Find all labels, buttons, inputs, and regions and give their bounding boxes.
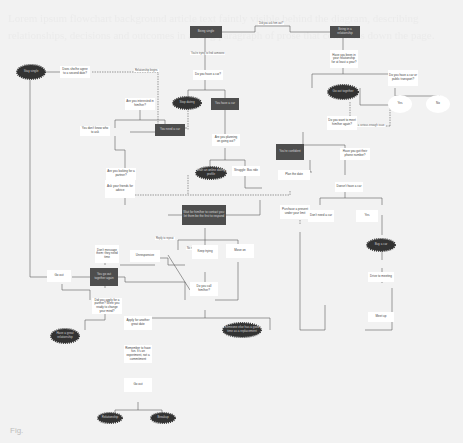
- node-dont-need-car[interactable]: Don't need a car: [308, 210, 334, 222]
- node-label: Meet up: [376, 315, 387, 319]
- node-go-out-final[interactable]: Go out: [124, 378, 152, 392]
- question-meet-again[interactable]: Do you want to meet him/her again?: [327, 116, 357, 130]
- node-label: Apply for another great date: [125, 319, 151, 326]
- edge-label-reply: Reply to repeat: [155, 237, 175, 240]
- node-label: Have a great relationship: [51, 332, 79, 339]
- cloud-great-relationship[interactable]: Have a great relationship: [50, 328, 80, 344]
- node-label: No: [436, 102, 440, 106]
- node-label: You have a car: [215, 102, 235, 106]
- node-need-car[interactable]: You need a car: [155, 124, 185, 136]
- question-partner2[interactable]: Are you looking for a partner?: [106, 168, 136, 180]
- node-label: You go out together again: [91, 273, 117, 280]
- node-label: Stay single: [24, 70, 39, 74]
- node-apply-date[interactable]: Apply for another great date: [124, 316, 152, 330]
- question-transport[interactable]: Do you have a car or public transport?: [388, 70, 418, 86]
- node-label: Go out: [133, 383, 142, 387]
- question-partner-year[interactable]: Have you been in your relationship for a…: [330, 50, 358, 68]
- cloud-relationship-end[interactable]: Relationship: [97, 412, 123, 424]
- node-label: Do you have a car or public transport?: [389, 74, 417, 81]
- node-label: Remember to have fun. It's an experiment…: [125, 347, 151, 361]
- node-label: You need a car: [160, 128, 180, 132]
- cloud-breakup-end[interactable]: Breakup: [150, 412, 176, 424]
- node-label: Are you looking for a partner?: [107, 170, 135, 177]
- node-move-on[interactable]: Move on: [226, 244, 254, 258]
- node-label: Breakup: [157, 416, 168, 420]
- node-remember-fun[interactable]: Remember to have fun. It's an experiment…: [124, 345, 152, 363]
- cloud-stop-dating[interactable]: Stop dating: [172, 96, 202, 110]
- node-yes[interactable]: Yes: [356, 210, 378, 222]
- node-keep-trying[interactable]: Keep trying: [192, 245, 218, 259]
- node-label: Yes: [398, 102, 403, 106]
- node-label: Are you interested in him/her?: [126, 100, 154, 107]
- edge-label-relationship: Relationship begins: [134, 69, 159, 72]
- start-being-single[interactable]: Being single: [190, 26, 222, 38]
- node-label: Does she/he agree to a second date?: [61, 68, 89, 75]
- figure-caption: Fig.: [10, 426, 23, 435]
- question-plans[interactable]: Are you planning on going out?: [212, 134, 240, 146]
- node-doesnt-have-car[interactable]: Doesn't have a car: [335, 182, 363, 192]
- node-label: Don't need a car: [310, 214, 332, 218]
- node-label: Wait for him/her to contact you: let the…: [183, 211, 225, 218]
- node-you-have-car[interactable]: You have a car: [211, 98, 239, 110]
- node-label: Move on: [234, 249, 246, 253]
- node-plan-date[interactable]: Plan the date: [278, 170, 310, 180]
- node-label: Plan the date: [285, 173, 303, 177]
- node-label: Buy a car: [375, 243, 388, 247]
- node-label: Purchase a present under your limit: [281, 208, 309, 215]
- cloud-go-out-together[interactable]: Go out together: [327, 84, 359, 100]
- cloud-online-profile[interactable]: Start an online dating profile: [195, 166, 227, 180]
- node-label: Being single: [198, 30, 214, 34]
- node-label: Start an online dating profile: [196, 169, 226, 176]
- node-bus-ride[interactable]: Struggle: Bus ride: [232, 166, 260, 176]
- question-phone-number[interactable]: Have you got their phone number?: [340, 148, 370, 160]
- edge-label-top: Did you ask him out?: [258, 22, 284, 25]
- question-interest[interactable]: Are you interested in him/her?: [125, 98, 155, 110]
- node-label: Do you have a car?: [195, 73, 221, 77]
- answer-no-circle[interactable]: No: [426, 95, 450, 113]
- node-label: Unresponsive: [136, 254, 154, 258]
- node-unresponsive[interactable]: Unresponsive: [130, 250, 160, 262]
- node-label: You don't know who to ask: [81, 127, 109, 134]
- start-relationship[interactable]: Being in a relationship: [330, 26, 360, 38]
- cloud-buy-car[interactable]: Buy a car: [366, 238, 396, 252]
- node-drive[interactable]: Drive to meeting: [368, 272, 394, 282]
- node-wait-contact[interactable]: Wait for him/her to contact you: let the…: [182, 205, 226, 225]
- node-label: Don't message them: they need time: [96, 249, 118, 260]
- cloud-stay-single[interactable]: Stay single: [16, 64, 46, 80]
- node-label: Stop dating: [179, 101, 194, 105]
- node-label: Have you been in your relationship for a…: [331, 54, 357, 65]
- node-dont-message[interactable]: Don't message them: they need time: [95, 245, 119, 263]
- node-label: Struggle: Bus ride: [234, 169, 258, 173]
- node-label: Are you planning on going out?: [213, 136, 239, 143]
- node-ask-friends[interactable]: Ask your friends for advice: [105, 180, 135, 198]
- node-label: Relationship: [102, 416, 119, 420]
- edge-label-right: Not a serious enough issue: [352, 124, 385, 127]
- node-label: You're confident: [279, 150, 300, 154]
- node-label: Someone else has a good time as a replac…: [223, 326, 261, 333]
- node-label: Yes: [365, 214, 370, 218]
- question-second-date[interactable]: Does she/he agree to a second date?: [60, 66, 90, 78]
- node-label: Ask your friends for advice: [106, 185, 134, 192]
- node-label: Have you got their phone number?: [341, 150, 369, 157]
- node-label: Did you apply for a partner? Were you re…: [93, 299, 121, 313]
- node-go-out-again[interactable]: You go out together again: [90, 268, 118, 286]
- node-label: Doesn't have a car: [337, 185, 362, 189]
- node-go-out-left[interactable]: Go out: [47, 270, 71, 282]
- node-label: Do you call him/her?: [191, 285, 217, 292]
- node-meet-up[interactable]: Meet up: [368, 312, 394, 322]
- node-label: Keep trying: [197, 250, 212, 254]
- node-dont-know[interactable]: You don't know who to ask: [80, 126, 110, 136]
- question-ready[interactable]: Did you apply for a partner? Were you re…: [92, 298, 122, 314]
- node-label: Go out: [54, 274, 63, 278]
- question-car[interactable]: Do you have a car?: [193, 70, 223, 80]
- node-label: Do you want to meet him/her again?: [328, 119, 356, 126]
- node-purchase-present[interactable]: Purchase a present under your limit: [280, 205, 310, 219]
- cloud-someone-else[interactable]: Someone else has a good time as a replac…: [222, 322, 262, 338]
- question-text[interactable]: Do you call him/her?: [190, 282, 218, 296]
- answer-yes-circle[interactable]: Yes: [388, 95, 412, 113]
- node-label: Being in a relationship: [331, 28, 359, 35]
- node-label: Go out together: [333, 90, 354, 94]
- node-confident[interactable]: You're confident: [276, 144, 304, 160]
- node-label: Drive to meeting: [370, 275, 392, 279]
- edge-label-single: You're trying to find someone: [190, 52, 225, 55]
